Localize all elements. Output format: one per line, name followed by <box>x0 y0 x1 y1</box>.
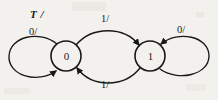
state-label-0: 0 <box>62 51 71 62</box>
header-annotation: T / <box>30 9 44 20</box>
transition-label-0-to-1: 1/ <box>101 14 109 25</box>
transition-path-self-1 <box>160 36 209 75</box>
transition-path-0-to-1 <box>76 31 139 45</box>
transition-label-1-to-0: 1/ <box>101 80 109 91</box>
transition-label-self-1: 0/ <box>177 25 185 36</box>
state-label-1: 1 <box>146 51 155 62</box>
transition-path-self-0 <box>9 36 57 77</box>
transition-label-self-0: 0/ <box>29 27 37 38</box>
state-diagram-figure: T / 0 1 0/ 1/ 1/ 0/ <box>0 0 218 100</box>
